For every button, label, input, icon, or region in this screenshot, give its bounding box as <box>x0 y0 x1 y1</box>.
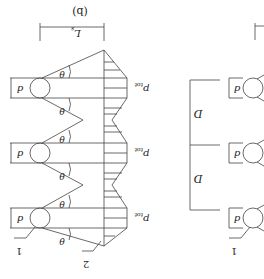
theta-label: θ <box>59 106 65 116</box>
arch-outline <box>42 50 104 78</box>
ls-dimension: Ls <box>40 23 104 41</box>
theta-label: θ <box>59 236 65 246</box>
D-label: D <box>193 172 203 185</box>
D-label: D <box>193 107 203 120</box>
d-label: d <box>234 214 240 225</box>
pile-circle <box>30 78 50 98</box>
pile-circle <box>243 208 263 228</box>
angle-arcs <box>69 65 71 240</box>
callout-pile-label: 1 <box>16 246 22 257</box>
pile-arching-diagram: (b) Ls <box>0 0 264 279</box>
ptot-label: ptot <box>134 147 149 160</box>
d-label: d <box>17 214 23 225</box>
pile-circle <box>30 143 50 163</box>
d-label: d <box>17 149 23 160</box>
callout-leader-pile <box>229 227 250 238</box>
panel-a: D D d d d <box>190 23 264 257</box>
d-label: d <box>17 84 23 95</box>
theta-label: θ <box>59 134 65 144</box>
ptot-label: ptot <box>134 212 149 225</box>
callout-leader-pile <box>14 227 35 238</box>
panel-b: (b) Ls <box>10 5 149 270</box>
pressure-hatch <box>104 62 127 236</box>
theta-label: θ <box>59 199 65 209</box>
pile-circle <box>30 208 50 228</box>
theta-label: θ <box>59 69 65 79</box>
pile-circle <box>243 78 263 98</box>
d-label: d <box>234 84 240 95</box>
panel-b-label: (b) <box>72 5 88 18</box>
theta-label: θ <box>59 171 65 181</box>
d-label: d <box>234 149 240 160</box>
callout-pile-label: 1 <box>231 246 237 257</box>
ls-label: Ls <box>71 26 82 39</box>
callout-pressure-label: 2 <box>83 259 89 270</box>
arch-outline <box>42 228 104 246</box>
ptot-label: ptot <box>134 82 149 95</box>
pile-circle <box>243 143 263 163</box>
pressure-distribution <box>104 50 127 246</box>
